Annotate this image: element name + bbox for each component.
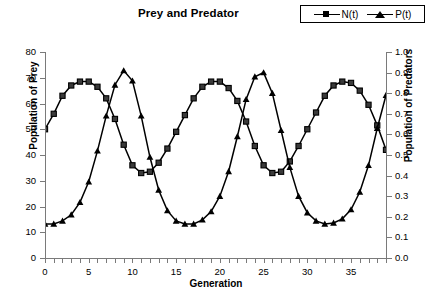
y-tick-right (386, 114, 392, 115)
y-tick-right (386, 155, 392, 156)
x-tick (369, 258, 370, 263)
x-tick (150, 258, 151, 263)
legend-label-n: N(t) (342, 9, 359, 20)
x-tick (194, 258, 195, 263)
triangle-marker-icon (295, 193, 302, 199)
square-marker-icon (278, 169, 283, 174)
square-marker-icon (139, 170, 144, 175)
triangle-marker-icon (208, 208, 215, 214)
x-tick (281, 258, 282, 263)
x-tick (62, 258, 63, 263)
triangle-marker-icon (138, 112, 145, 118)
x-tick (342, 258, 343, 263)
x-tick (325, 258, 326, 263)
y-tick-label-left-wrap: 10 (4, 226, 36, 236)
x-axis (45, 258, 387, 259)
x-tick-label: 20 (208, 266, 232, 277)
plot-svg (45, 52, 386, 258)
x-tick (106, 258, 107, 263)
x-tick (159, 258, 160, 263)
square-marker-icon (314, 10, 340, 19)
y-tick-right (386, 93, 392, 94)
square-marker-icon (112, 116, 117, 121)
triangle-marker-icon (260, 69, 267, 75)
x-tick (264, 258, 265, 263)
square-marker-icon (191, 96, 196, 101)
y-tick-label-left: 10 (6, 226, 36, 237)
square-marker-icon (261, 163, 266, 168)
x-axis-title: Generation (45, 278, 387, 289)
y-tick-label-right-wrap: 0.1 (395, 231, 427, 241)
triangle-marker-icon (120, 67, 127, 73)
triangle-marker-icon (278, 127, 285, 133)
x-tick (229, 258, 230, 263)
x-tick (386, 258, 387, 263)
square-marker-icon (104, 96, 109, 101)
triangle-marker-icon (356, 189, 363, 195)
triangle-marker-icon (243, 96, 250, 102)
y-tick-right (386, 237, 392, 238)
triangle-marker-icon (225, 168, 232, 174)
square-marker-icon (366, 102, 371, 107)
x-tick (97, 258, 98, 263)
x-tick (351, 258, 352, 263)
triangle-marker-icon (367, 10, 393, 19)
series-Pt (45, 67, 386, 227)
y-tick-left (40, 52, 46, 53)
series-line (45, 71, 386, 224)
square-marker-icon (296, 143, 301, 148)
square-marker-icon (121, 142, 126, 147)
x-tick (299, 258, 300, 263)
x-tick (255, 258, 256, 263)
x-tick (360, 258, 361, 263)
triangle-marker-icon (348, 206, 355, 212)
x-tick (211, 258, 212, 263)
triangle-marker-icon (77, 199, 84, 205)
square-marker-icon (331, 83, 336, 88)
x-tick (45, 258, 46, 263)
x-tick-label: 10 (120, 266, 144, 277)
y-tick-left (40, 232, 46, 233)
series-line (45, 82, 386, 173)
y-tick-label-left-wrap: 0 (4, 252, 36, 262)
x-tick-label: 30 (295, 266, 319, 277)
legend-entry-n: N(t) (314, 9, 359, 20)
square-marker-icon (235, 98, 240, 103)
triangle-marker-icon (147, 154, 154, 160)
triangle-marker-icon (85, 178, 92, 184)
square-marker-icon (313, 110, 318, 115)
y-tick-label-right: 0.0 (395, 252, 427, 263)
y-tick-label-right-wrap: 0.0 (395, 252, 427, 262)
x-tick (176, 258, 177, 263)
square-marker-icon (200, 84, 205, 89)
x-tick (132, 258, 133, 263)
y-tick-right (386, 196, 392, 197)
y-axis-right-title: Population of Predators (403, 16, 414, 196)
square-marker-icon (77, 79, 82, 84)
triangle-marker-icon (155, 187, 162, 193)
square-marker-icon (209, 79, 214, 84)
square-marker-icon (182, 112, 187, 117)
square-marker-icon (270, 170, 275, 175)
triangle-marker-icon (234, 133, 241, 139)
x-tick (290, 258, 291, 263)
y-tick-right (386, 73, 392, 74)
x-tick (167, 258, 168, 263)
y-tick-label-right: 0.2 (395, 211, 427, 222)
series-Nt (45, 79, 386, 176)
y-tick-label-left: 20 (6, 201, 36, 212)
square-marker-icon (86, 79, 91, 84)
square-marker-icon (156, 160, 161, 165)
x-tick (115, 258, 116, 263)
x-tick (316, 258, 317, 263)
x-tick (246, 258, 247, 263)
y-tick-left (40, 155, 46, 156)
x-tick (272, 258, 273, 263)
square-marker-icon (69, 83, 74, 88)
square-marker-icon (60, 93, 65, 98)
square-marker-icon (174, 129, 179, 134)
y-axis-left-title: Population of Prey (28, 26, 39, 186)
x-tick (202, 258, 203, 263)
square-marker-icon (348, 80, 353, 85)
y-tick-left (40, 78, 46, 79)
